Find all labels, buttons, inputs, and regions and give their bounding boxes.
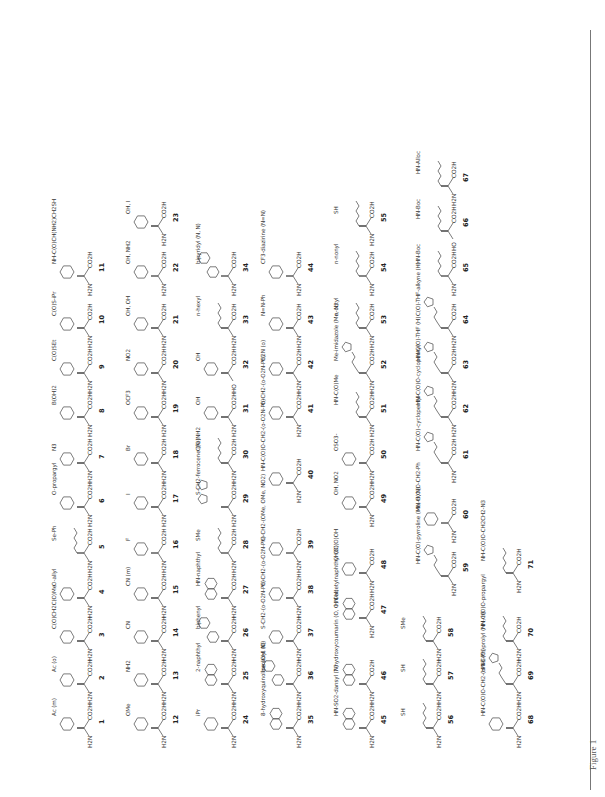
compound-number: 45: [380, 715, 388, 724]
c-terminus-label: CO2H: [161, 348, 167, 365]
n-terminus-label: H2N: [369, 692, 375, 704]
substituent-label: SMe: [195, 529, 201, 541]
n-terminus-label: H2N: [231, 561, 237, 573]
n-terminus-label: H2N: [87, 736, 93, 748]
compound-number: 48: [380, 560, 388, 569]
compound-number: 20: [172, 360, 180, 369]
compound-number: 57: [447, 671, 455, 680]
compound-number: 10: [98, 315, 106, 324]
c-terminus-label: CO2H: [451, 498, 457, 515]
n-terminus-label: H2N: [369, 234, 375, 246]
compound-number: 16: [172, 540, 180, 549]
n-terminus-label: H2N: [436, 649, 442, 661]
n-terminus-label: H2N: [296, 736, 302, 748]
compound-number: 68: [527, 715, 535, 724]
substituent-label: SMe: [400, 617, 406, 629]
n-terminus-label: H2N: [161, 284, 167, 296]
compound-number: 56: [447, 715, 455, 724]
n-terminus-label: H2N: [369, 284, 375, 296]
n-terminus-label: H2N: [451, 194, 457, 206]
compound-number: 36: [307, 671, 315, 680]
compound-number: 65: [462, 263, 470, 272]
n-terminus-label: H2N: [296, 606, 302, 618]
compound-number: 63: [462, 360, 470, 369]
compound-number: 69: [527, 671, 535, 680]
compound-number: 3: [98, 632, 106, 637]
page-margin-rule: [590, 30, 591, 790]
n-terminus-label: H2N: [296, 692, 302, 704]
substituent-label: HN-Alloc: [415, 151, 421, 174]
n-terminus-label: H2N: [296, 649, 302, 661]
c-terminus-label: CO2H: [87, 303, 93, 320]
n-terminus-label: H2N: [451, 531, 457, 543]
n-terminus-label: H2N: [451, 425, 457, 437]
c-terminus-label: CO2H: [87, 348, 93, 365]
c-terminus-label: CO2H: [451, 206, 457, 223]
c-terminus-label: CO2H: [161, 438, 167, 455]
n-terminus-label: H2N: [87, 515, 93, 527]
substituent-label: NH-C(O)O-CH2CH2-N3: [480, 500, 486, 561]
n-terminus-label: H2N: [161, 471, 167, 483]
n-terminus-label: H2N: [161, 234, 167, 246]
n-terminus-label: H2N: [161, 336, 167, 348]
compound-number: 18: [172, 450, 180, 459]
n-terminus-label: H2N: [516, 692, 522, 704]
c-terminus-label: CO2H: [369, 201, 375, 218]
n-terminus-label: H2N: [87, 606, 93, 618]
n-terminus-label: H2N: [369, 626, 375, 638]
compound-number: 58: [447, 628, 455, 637]
compound-number: 70: [527, 628, 535, 637]
compound-number: 9: [98, 364, 106, 369]
n-terminus-label: H2N: [161, 649, 167, 661]
c-terminus-label: CO2H: [369, 659, 375, 676]
c-terminus-label: CO2H: [369, 593, 375, 610]
figure-caption: Figure 1: [588, 740, 598, 770]
n-terminus-label: H2N: [87, 425, 93, 437]
compound-number: 32: [242, 360, 250, 369]
substituent-label: n-octyl: [333, 297, 339, 316]
compound-number: 67: [462, 173, 470, 182]
c-terminus-label: CO2H: [87, 438, 93, 455]
n-terminus-label: H2N: [231, 736, 237, 748]
n-terminus-label: H2N: [451, 336, 457, 348]
c-terminus-label: CO2H: [296, 251, 302, 268]
n-terminus-label: H2N: [231, 692, 237, 704]
n-terminus-label: H2N: [369, 581, 375, 593]
compound-number: 33: [242, 315, 250, 324]
compound-number: 23: [172, 213, 180, 222]
n-terminus-label: H2N: [516, 581, 522, 593]
compound-number: 51: [380, 404, 388, 413]
compound-number: 26: [242, 628, 250, 637]
substituent-label: CH2C(O)OH: [333, 529, 339, 561]
n-terminus-label: H2N: [231, 606, 237, 618]
compound-number: 6: [98, 498, 106, 503]
n-terminus-label: H2N: [87, 381, 93, 393]
compound-number: 11: [98, 263, 106, 272]
compound-number: 22: [172, 263, 180, 272]
compound-number: 59: [462, 563, 470, 572]
c-terminus-label: CO2H: [231, 573, 237, 590]
substituent-label: I: [125, 493, 131, 495]
substituent-label: bipyridyl (N, N): [195, 223, 201, 264]
c-terminus-label: CO2H: [296, 348, 302, 365]
c-terminus-label: CO2H: [87, 573, 93, 590]
substituent-label: iPr: [195, 709, 201, 716]
c-terminus-label: CO2H: [369, 303, 375, 320]
compound-number: 61: [462, 450, 470, 459]
c-terminus-label: CO2H: [451, 251, 457, 268]
n-terminus-label: H2N: [161, 736, 167, 748]
c-terminus-label: CO2H: [231, 438, 237, 455]
c-terminus-label: CO2H: [231, 303, 237, 320]
n-terminus-label: H2N: [451, 284, 457, 296]
c-terminus-label: CO2H: [296, 303, 302, 320]
c-terminus-label: CO2H: [231, 251, 237, 268]
compound-number: 14: [172, 628, 180, 637]
compound-number: 64: [462, 315, 470, 324]
c-terminus-label: CO2H: [451, 303, 457, 320]
n-terminus-label: H2N: [369, 471, 375, 483]
compound-number: 21: [172, 315, 180, 324]
compound-number: 62: [462, 404, 470, 413]
n-terminus-label: H2N: [516, 736, 522, 748]
c-terminus-label: CO2H: [87, 528, 93, 545]
compound-number: 37: [307, 628, 315, 637]
